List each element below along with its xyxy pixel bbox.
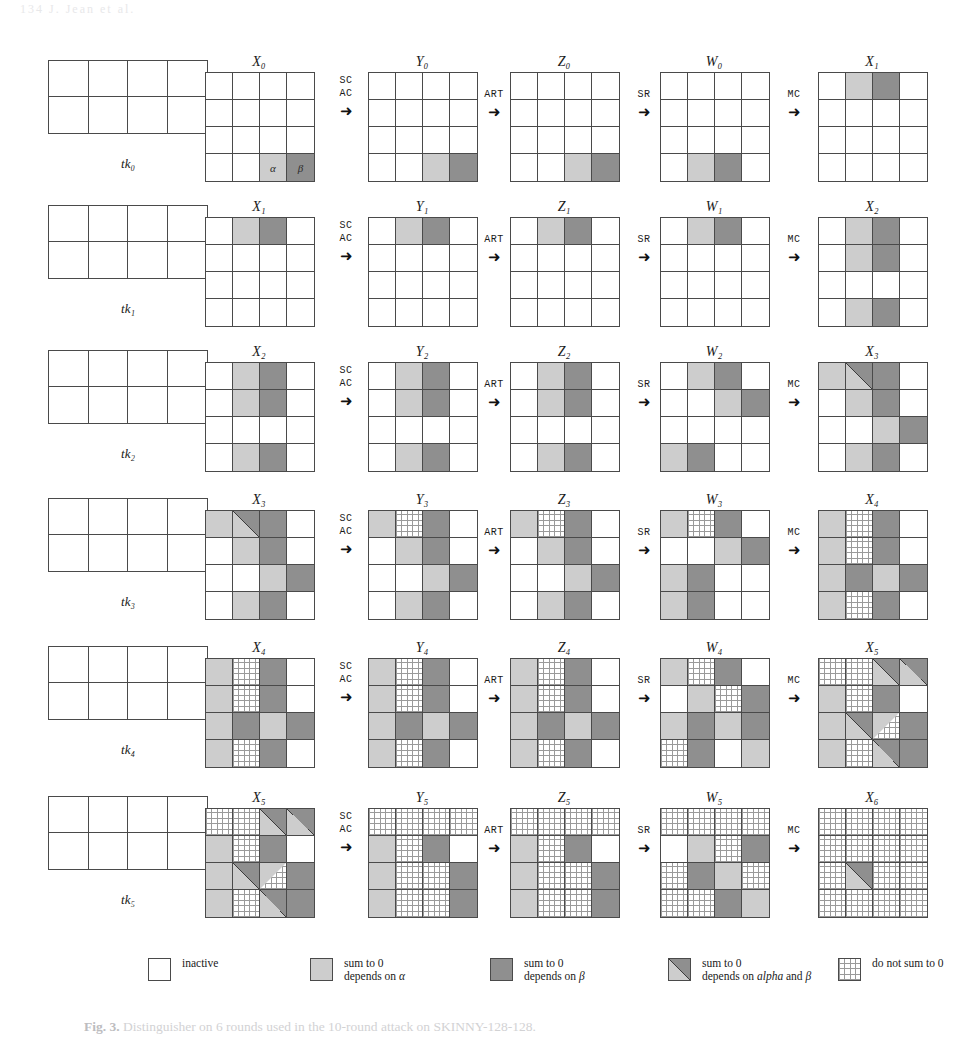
state-cell [688,390,715,417]
state-cell [538,511,565,538]
operation-label-secondary: AC [320,673,372,686]
state-cell [873,245,900,272]
state-cell [715,592,742,619]
state-cell [233,890,260,917]
state-cell [873,299,900,326]
state-cell [287,127,314,154]
state-cell [592,740,619,767]
state-cell [511,592,538,619]
state-cell [260,218,287,245]
tweakey-cell [49,97,89,133]
tweakey-cell [49,351,89,387]
legend-item: do not sum to 0 [838,957,944,981]
state-cell [511,890,538,917]
state-cell [423,218,450,245]
tweakey-cell [168,499,208,535]
tweakey-cell [128,535,168,571]
state-cell [900,511,927,538]
state-cell [260,565,287,592]
state-cell [819,863,846,890]
legend-label-line: inactive [182,957,218,970]
state-cell [742,390,769,417]
state-cell [450,299,477,326]
state-cell [396,127,423,154]
state-cell [260,73,287,100]
state-cell [423,538,450,565]
operation-sr: SR➜ [618,674,670,707]
tweakey-cell [89,242,129,278]
tweakey-cell [168,797,208,833]
operation-label-secondary: AC [320,525,372,538]
state-cell [819,417,846,444]
state-cell [423,565,450,592]
state-cell [873,444,900,471]
state-grid [510,362,620,472]
state-cell [873,73,900,100]
state-cell [369,218,396,245]
state-cell [538,100,565,127]
state-grid [510,658,620,768]
state-cell [846,272,873,299]
state-cell [873,659,900,686]
state-cell [900,686,927,713]
state-cell [369,245,396,272]
operation-label: SC [320,660,372,673]
state-grid [205,808,315,918]
operation-art: ART➜ [468,824,520,857]
state-cell [396,890,423,917]
state-cell [592,272,619,299]
state-cell [369,417,396,444]
state-label: X₃ [818,342,926,362]
state-cell [538,686,565,713]
state-cell [819,740,846,767]
figure-caption: Fig. 3. Distinguisher on 6 rounds used i… [84,1018,904,1035]
state-cell [661,272,688,299]
operation-label: SR [618,526,670,539]
state-cell [538,836,565,863]
arrow-right-icon: ➜ [468,840,520,857]
state-cell [688,713,715,740]
state-cell [233,565,260,592]
state-cell [819,127,846,154]
state-cell [423,272,450,299]
state-cell [592,511,619,538]
state-cell [819,444,846,471]
state-block: W₀ [660,52,768,182]
state-cell [592,809,619,836]
state-cell [511,713,538,740]
state-cell [742,73,769,100]
trail-row: tk₅X₅Y₅Z₅W₅X₆SCAC➜ART➜SR➜MC➜ [0,788,975,933]
state-cell [396,863,423,890]
state-cell [900,659,927,686]
state-cell [423,363,450,390]
arrow-right-icon: ➜ [768,249,820,266]
state-label: Y₅ [368,788,476,808]
state-cell [450,127,477,154]
state-cell [846,538,873,565]
tweakey-cell [89,499,129,535]
state-cell [206,713,233,740]
state-cell [450,740,477,767]
tweakey-label: tk₂ [48,446,208,462]
state-cell [688,538,715,565]
state-cell [846,245,873,272]
operation-sr: SR➜ [618,526,670,559]
state-cell [846,100,873,127]
state-grid [368,510,478,620]
state-cell [846,363,873,390]
state-label: Y₃ [368,490,476,510]
state-cell [592,444,619,471]
state-cell [233,363,260,390]
state-cell [287,245,314,272]
state-cell [715,538,742,565]
state-cell [873,836,900,863]
state-cell [369,272,396,299]
state-label: X₄ [205,638,313,658]
state-cell [819,565,846,592]
state-grid [368,658,478,768]
state-cell [369,390,396,417]
state-cell [688,592,715,619]
state-cell [846,511,873,538]
state-cell [688,565,715,592]
state-cell [565,809,592,836]
